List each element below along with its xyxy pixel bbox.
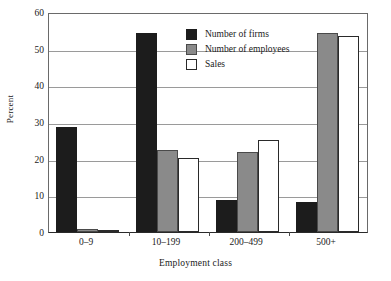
x-axis-tick-label: 200–499 (229, 237, 262, 247)
legend-swatch-sales (186, 59, 197, 70)
x-axis-title: Employment class (0, 258, 391, 268)
x-axis-tick (289, 232, 290, 236)
bar-sales (258, 140, 279, 232)
bar-sales (338, 36, 359, 232)
bar-employees (317, 33, 338, 232)
y-axis-tick-label: 40 (22, 81, 44, 91)
x-axis-tick (209, 232, 210, 236)
bar-sales (98, 230, 119, 232)
y-axis-tick-label: 10 (22, 191, 44, 201)
y-axis-tick-label: 20 (22, 155, 44, 165)
legend-label: Number of firms (205, 29, 269, 40)
bar-employees (237, 152, 258, 232)
y-axis-tick-labels: 0102030405060 (20, 13, 44, 233)
legend-swatch-employees (186, 44, 197, 55)
y-axis-tick-label: 0 (22, 228, 44, 238)
legend-label: Number of employees (205, 44, 289, 55)
bar-sales (178, 158, 199, 232)
x-axis-tick-label: 500+ (316, 237, 336, 247)
bar-group (56, 14, 119, 232)
legend-swatch-firms (186, 29, 197, 40)
y-axis-tick-label: 60 (22, 8, 44, 18)
legend-item: Sales (186, 57, 289, 71)
bar-group (296, 14, 359, 232)
bar-employees (77, 229, 98, 232)
y-axis-tick-label: 30 (22, 118, 44, 128)
legend-item: Number of firms (186, 27, 289, 41)
bar-chart: Percent 0102030405060 0–910–199200–49950… (0, 0, 391, 281)
legend-label: Sales (205, 59, 225, 70)
chart-legend: Number of firmsNumber of employeesSales (186, 27, 289, 72)
bar-firms (216, 200, 237, 232)
y-axis-title: Percent (5, 79, 15, 139)
y-axis-tick-label: 50 (22, 45, 44, 55)
bar-employees (157, 150, 178, 232)
bar-firms (136, 33, 157, 232)
bar-firms (296, 202, 317, 232)
bar-firms (56, 127, 77, 232)
x-axis-tick-label: 0–9 (79, 237, 93, 247)
x-axis-tick (129, 232, 130, 236)
x-axis-tick-label: 10–199 (152, 237, 181, 247)
legend-item: Number of employees (186, 42, 289, 56)
